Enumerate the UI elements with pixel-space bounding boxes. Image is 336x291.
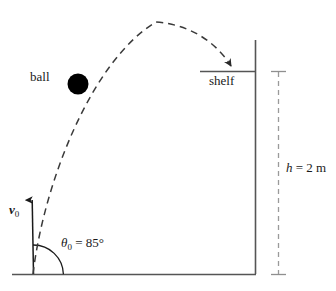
height-value: 2 m (306, 160, 326, 175)
height-equals: = (293, 160, 307, 175)
angle-value: 85° (86, 235, 104, 250)
ball-label: ball (30, 70, 50, 83)
shelf-label: shelf (209, 74, 234, 87)
projectile-motion-diagram: ball shelf v0 θ0 = 85° h = 2 m (0, 0, 336, 291)
initial-velocity-label: v0 (9, 203, 19, 219)
initial-velocity-vector (32, 200, 33, 274)
ball-marker (68, 74, 89, 95)
diagram-canvas (0, 0, 336, 291)
angle-equals: = (72, 235, 86, 250)
launch-angle-arc (33, 245, 63, 274)
launch-angle-label: θ0 = 85° (61, 236, 104, 252)
velocity-subscript: 0 (15, 209, 20, 219)
shelf-height-label: h = 2 m (286, 161, 326, 174)
